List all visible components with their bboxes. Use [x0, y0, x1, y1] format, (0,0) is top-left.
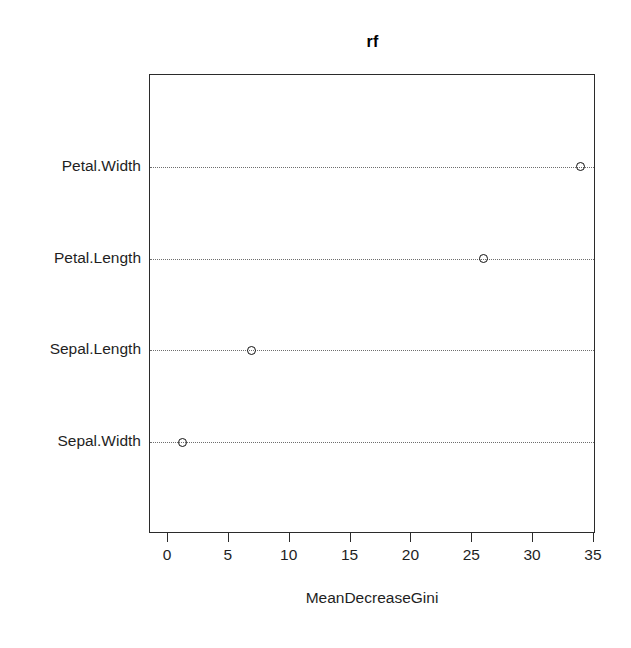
gridline — [150, 259, 594, 260]
x-axis-tick-label: 0 — [163, 547, 172, 563]
page-title: rf — [57, 33, 631, 51]
x-axis-tick — [228, 533, 229, 542]
y-axis-tick-label: Petal.Width — [1, 158, 141, 174]
x-axis-tick — [471, 533, 472, 542]
x-axis-tick-label: 35 — [584, 547, 601, 563]
y-axis-labels: Petal.WidthPetal.LengthSepal.LengthSepal… — [0, 74, 141, 533]
x-axis: 05101520253035 — [149, 533, 595, 593]
y-axis-tick-label: Sepal.Width — [1, 433, 141, 449]
x-axis-tick — [350, 533, 351, 542]
x-axis-title: MeanDecreaseGini — [149, 589, 595, 607]
y-axis-tick-label: Sepal.Length — [1, 342, 141, 358]
y-axis-tick-label: Petal.Length — [1, 250, 141, 266]
x-axis-tick-label: 30 — [523, 547, 540, 563]
x-axis-tick-label: 15 — [341, 547, 358, 563]
x-axis-tick — [532, 533, 533, 542]
x-axis-tick — [593, 533, 594, 542]
data-point — [479, 254, 488, 263]
x-axis-tick-label: 25 — [463, 547, 480, 563]
x-axis-tick — [167, 533, 168, 542]
gridline — [150, 442, 594, 443]
gridline — [150, 350, 594, 351]
x-axis-tick — [289, 533, 290, 542]
x-axis-tick-label: 5 — [224, 547, 233, 563]
plot-panel — [149, 74, 595, 533]
variable-importance-plot: rf Petal.WidthPetal.LengthSepal.LengthSe… — [0, 0, 631, 648]
data-point — [576, 162, 585, 171]
x-axis-tick-label: 20 — [402, 547, 419, 563]
gridline — [150, 167, 594, 168]
x-axis-tick-label: 10 — [280, 547, 297, 563]
x-axis-tick — [410, 533, 411, 542]
data-point — [178, 438, 187, 447]
data-point — [247, 346, 256, 355]
